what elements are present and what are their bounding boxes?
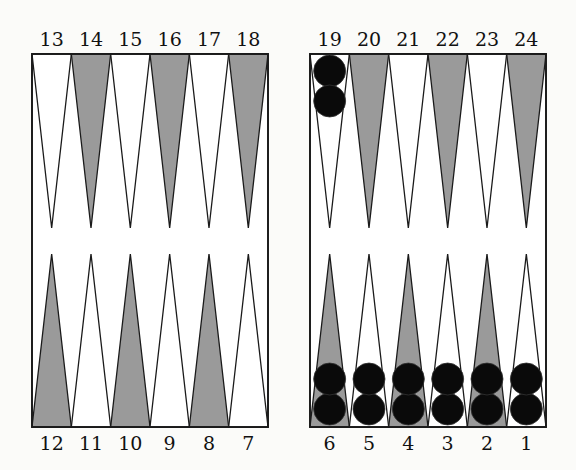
checker[interactable] (314, 85, 346, 117)
checker[interactable] (432, 363, 464, 395)
point-label: 7 (242, 432, 254, 454)
checker[interactable] (353, 393, 385, 425)
point-label: 23 (475, 28, 499, 50)
checker[interactable] (314, 55, 346, 87)
point-label: 19 (318, 28, 342, 50)
checker[interactable] (471, 363, 503, 395)
point-label: 6 (324, 432, 336, 454)
point-label: 18 (236, 28, 260, 50)
point-label: 14 (79, 28, 103, 50)
point-label: 22 (436, 28, 460, 50)
point-label: 15 (118, 28, 142, 50)
point-label: 3 (442, 432, 454, 454)
point-label: 10 (118, 432, 142, 454)
board-frame (310, 54, 546, 427)
point-label: 21 (396, 28, 420, 50)
right-board-half (310, 54, 546, 427)
point-label: 9 (164, 432, 176, 454)
backgammon-board: 131214111510169178187196205214223232241 (0, 0, 576, 470)
point-label: 16 (158, 28, 182, 50)
point-label: 24 (514, 28, 538, 50)
board-frame (32, 54, 268, 427)
point-label: 20 (357, 28, 381, 50)
checker[interactable] (353, 363, 385, 395)
point-label: 8 (203, 432, 215, 454)
point-label: 4 (402, 432, 414, 454)
point-label: 5 (363, 432, 375, 454)
checker[interactable] (314, 363, 346, 395)
checker[interactable] (510, 363, 542, 395)
point-label: 1 (520, 432, 532, 454)
left-board-half (32, 54, 268, 427)
point-label: 11 (79, 432, 103, 454)
point-label: 17 (197, 28, 221, 50)
point-label: 13 (40, 28, 64, 50)
checker[interactable] (471, 393, 503, 425)
checker[interactable] (392, 393, 424, 425)
point-label: 12 (40, 432, 64, 454)
checker[interactable] (432, 393, 464, 425)
point-label: 2 (481, 432, 493, 454)
checker[interactable] (510, 393, 542, 425)
checker[interactable] (392, 363, 424, 395)
checker[interactable] (314, 393, 346, 425)
